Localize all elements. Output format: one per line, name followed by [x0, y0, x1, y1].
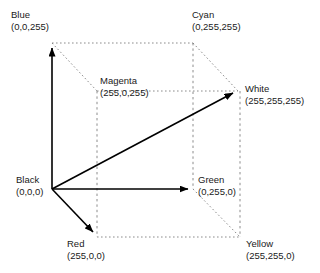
vertex-label-yellow: Yellow (255,255,0) — [246, 238, 295, 262]
vertex-name-yellow: Yellow — [246, 238, 295, 250]
vertex-label-cyan: Cyan (0,255,255) — [192, 9, 241, 33]
vertex-label-magenta: Magenta (255,0,255) — [100, 75, 149, 99]
vertex-coords-blue: (0,0,255) — [11, 21, 49, 33]
vertex-label-white: White (255,255,255) — [245, 83, 304, 107]
edge-blue-magenta — [52, 43, 97, 91]
vertex-coords-white: (255,255,255) — [245, 95, 304, 107]
vertex-name-white: White — [245, 83, 304, 95]
vertex-coords-green: (0,255,0) — [198, 186, 236, 198]
vertex-coords-red: (255,0,0) — [67, 250, 105, 262]
vertex-coords-yellow: (255,255,0) — [246, 250, 295, 262]
vertex-name-magenta: Magenta — [100, 75, 149, 87]
red-axis-arrow — [52, 189, 93, 232]
vertex-label-red: Red (255,0,0) — [67, 238, 105, 262]
vertex-name-cyan: Cyan — [192, 9, 241, 21]
vertex-coords-cyan: (0,255,255) — [192, 21, 241, 33]
vertex-label-blue: Blue (0,0,255) — [11, 9, 49, 33]
cube-wireframe — [0, 0, 320, 273]
vertex-name-black: Black — [16, 174, 43, 186]
vertex-name-green: Green — [198, 174, 236, 186]
edge-cyan-white — [193, 43, 238, 91]
vertex-label-green: Green (0,255,0) — [198, 174, 236, 198]
vertex-name-red: Red — [67, 238, 105, 250]
vertex-name-blue: Blue — [11, 9, 49, 21]
vertex-label-black: Black (0,0,0) — [16, 174, 43, 198]
rgb-color-cube-diagram: Blue (0,0,255) Cyan (0,255,255) Magenta … — [0, 0, 320, 273]
vertex-coords-black: (0,0,0) — [16, 186, 43, 198]
vertex-coords-magenta: (255,0,255) — [100, 87, 149, 99]
